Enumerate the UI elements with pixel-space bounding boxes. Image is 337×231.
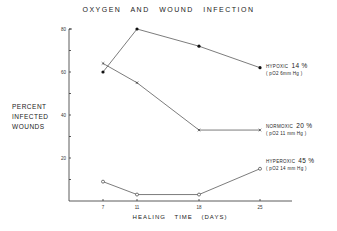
svg-text:25: 25 [257,205,263,210]
legend-name: HYPEROXIC [266,159,295,164]
x-axis-label: HEALING TIME (DAYS) [60,214,300,220]
legend-name: HYPOXIC [266,64,288,69]
legend-sub: ( pO2 11 mm Hg ) [266,130,312,137]
legend-name: NORMOXIC [266,124,293,129]
legend-pct: 14 % [291,62,307,69]
legend-sub: ( pO2 6mm Hg ) [266,70,307,77]
svg-text:40: 40 [61,113,67,118]
legend-normoxic: NORMOXIC 20 % ( pO2 11 mm Hg ) [266,122,312,137]
svg-text:80: 80 [61,27,67,32]
tick-labels: 204060807111825 [61,27,263,211]
svg-text:11: 11 [135,205,140,210]
svg-text:18: 18 [196,205,202,210]
legend-hypoxic: HYPOXIC 14 % ( pO2 6mm Hg ) [266,62,307,77]
svg-text:60: 60 [61,70,67,75]
legend-pct: 20 % [296,122,312,129]
axes [69,29,292,201]
legend-pct: 45 % [298,157,314,164]
series-lines [101,27,261,196]
plot-area: 204060807111825 [0,0,337,231]
svg-text:7: 7 [102,205,105,210]
svg-text:20: 20 [61,156,67,161]
legend-hyperoxic: HYPEROXIC 45 % ( pO2 14 mm Hg ) [266,157,314,172]
legend-sub: ( pO2 14 mm Hg ) [266,165,314,172]
